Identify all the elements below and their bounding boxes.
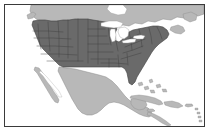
map-figure: Grayscale reference map showing the lowe… (0, 0, 212, 137)
map-frame-border (4, 4, 205, 127)
north-america-map[interactable] (5, 5, 204, 126)
